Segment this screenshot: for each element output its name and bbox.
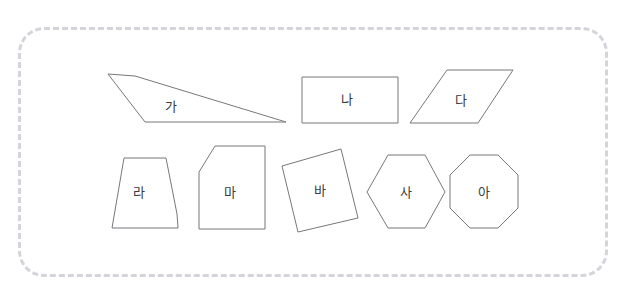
shape-ba-label: 바: [314, 184, 326, 197]
shape-ga-label: 가: [165, 100, 177, 113]
shapes-layer: 가 나 다 라 마 바 사 아: [0, 0, 624, 299]
shape-sa-label: 사: [400, 186, 412, 199]
shape-ma-label: 마: [224, 186, 236, 199]
shape-ra-label: 라: [133, 186, 145, 199]
shape-ga-outline[interactable]: [108, 74, 286, 122]
shape-da-label: 다: [455, 94, 467, 107]
shapes-canvas: [0, 0, 624, 299]
shape-na-label: 나: [341, 93, 353, 106]
worksheet-page: 가 나 다 라 마 바 사 아: [0, 0, 624, 299]
shape-ra-outline[interactable]: [112, 158, 178, 228]
shape-a-label: 아: [478, 186, 490, 199]
